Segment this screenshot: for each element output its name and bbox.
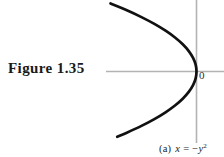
origin-label: 0	[199, 70, 205, 81]
caption-part-label: (a)	[159, 143, 171, 154]
caption-exponent: 2	[203, 142, 207, 150]
caption-lhs-variable: x	[175, 143, 180, 154]
figure-caption: (a)x=−y2	[159, 143, 207, 154]
parabola-curve	[111, 4, 197, 137]
caption-equals-sign: =	[183, 143, 189, 154]
figure-container: Figure 1.35 0 (a)x=−y2	[0, 0, 224, 157]
parabola-plot	[0, 0, 224, 157]
